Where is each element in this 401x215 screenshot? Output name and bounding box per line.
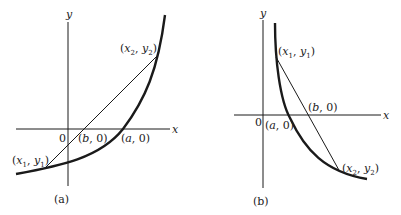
- point-b0-label-b: (b, 0): [308, 101, 338, 114]
- origin-label-a: 0: [59, 132, 66, 145]
- y-axis-label-b: y: [259, 7, 267, 20]
- figure-b: y x 0 (x1, y1) (b, 0) (a, 0) (x2, y2) (b…: [234, 7, 390, 208]
- point-x2y2-label-a: (x2, y2): [120, 42, 157, 57]
- figure-a: y x 0 (x2, y2) (x1, y1) (b, 0) (a, 0) (a…: [12, 8, 179, 206]
- caption-b: (b): [253, 195, 269, 208]
- point-a0-label-a: (a, 0): [121, 132, 150, 145]
- y-axis-label-a: y: [65, 8, 73, 21]
- point-b0-label-a: (b, 0): [78, 132, 108, 145]
- secant-line-a: [46, 54, 159, 167]
- curve-a: [16, 15, 165, 174]
- diagram-canvas: y x 0 (x2, y2) (x1, y1) (b, 0) (a, 0) (a…: [0, 0, 401, 215]
- point-x1y1-label-b: (x1, y1): [278, 45, 315, 60]
- point-x1y1-label-a: (x1, y1): [12, 154, 49, 169]
- x-axis-label-a: x: [172, 123, 179, 136]
- x-axis-label-b: x: [383, 109, 390, 122]
- origin-label-b: 0: [255, 116, 262, 129]
- point-x2y2-label-b: (x2, y2): [342, 162, 379, 177]
- point-a0-label-b: (a, 0): [265, 119, 294, 132]
- caption-a: (a): [54, 193, 69, 206]
